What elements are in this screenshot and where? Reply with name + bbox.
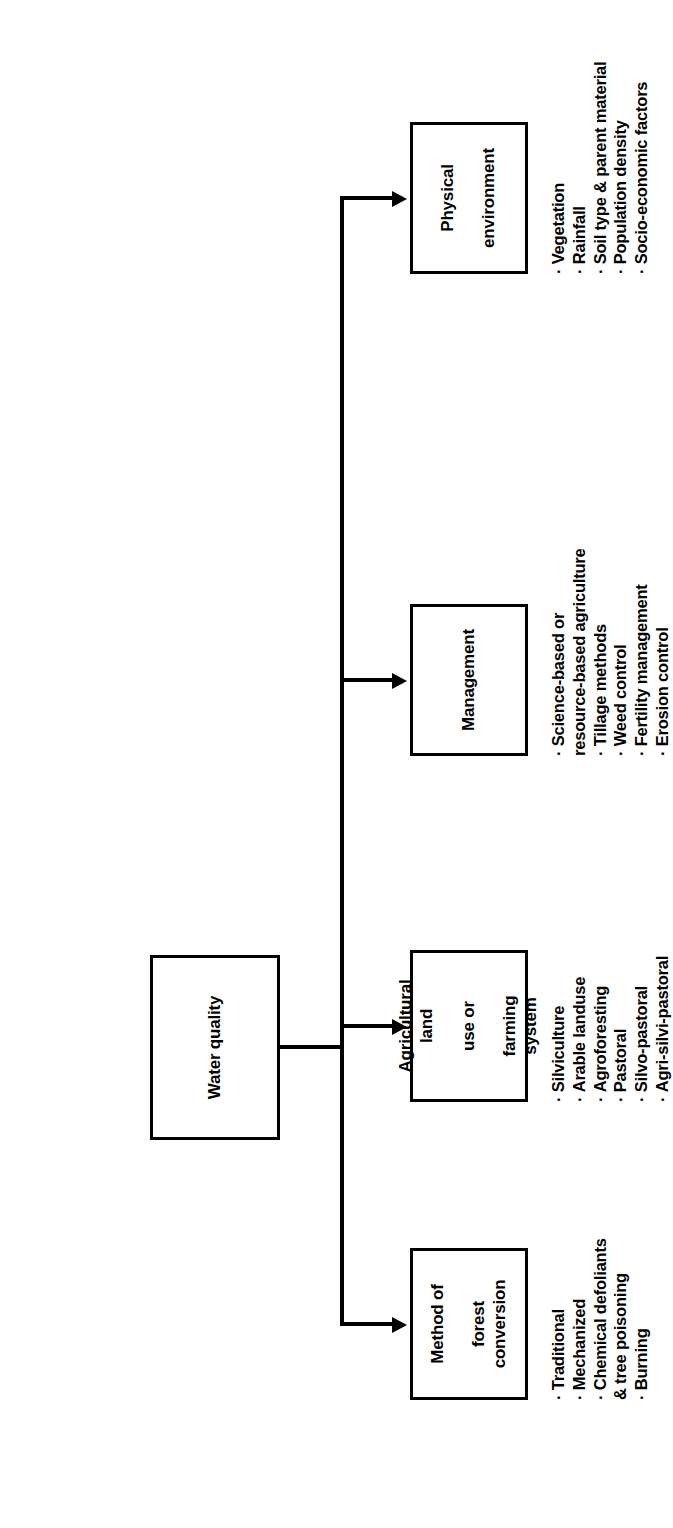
connector-drop-4: [340, 196, 396, 200]
list-item: Mechanized: [569, 1238, 590, 1400]
list-item: Chemical defoliants: [590, 1238, 611, 1400]
list-item: Vegetation: [548, 62, 569, 274]
list-item: Agri-silvi-pastoral: [652, 956, 673, 1102]
branch-node-agricultural-land-use-or-farming-system: Agricultural land use or farming system: [410, 950, 528, 1102]
branch-node-method-of-forest-conversion: Method of forest conversion: [410, 1248, 528, 1400]
connector-drop-1: [340, 1322, 396, 1326]
branch-title-4: Physical environment: [438, 136, 500, 260]
connector-drop-2: [340, 1024, 396, 1028]
list-item: Silviculture: [548, 956, 569, 1102]
list-item: Arable landuse: [569, 956, 590, 1102]
list-item: Fertility management: [631, 548, 652, 756]
branch-node-management: Management: [410, 604, 528, 756]
list-item: Silvo-pastoral: [631, 956, 652, 1102]
bullet-list-agricultural-land-use: Silviculture Arable landuse Agroforestin…: [548, 956, 673, 1102]
arrowhead-3: [392, 673, 407, 689]
connector-root-drop: [280, 1046, 342, 1050]
list-item: Agroforesting: [590, 956, 611, 1102]
list-item: Socio-economic factors: [631, 62, 652, 274]
list-item: Rainfall: [569, 62, 590, 274]
bullet-list-management: Science-based or resource-based agricult…: [548, 548, 673, 756]
list-item-continuation: & tree poisoning: [610, 1238, 631, 1400]
list-item: Traditional: [548, 1238, 569, 1400]
list-item: Burning: [631, 1238, 652, 1400]
list-item-continuation: resource-based agriculture: [569, 548, 590, 756]
branch-title-line: Management: [459, 623, 480, 737]
branch-node-physical-environment: Physical environment: [410, 122, 528, 274]
branch-title-line: Physical: [438, 142, 459, 254]
branch-title-1: Method of forest conversion: [428, 1251, 511, 1397]
connector-spine: [340, 196, 344, 1326]
list-item: Erosion control: [652, 548, 673, 756]
arrowhead-4: [392, 191, 407, 207]
branch-title-line: environment: [479, 142, 500, 254]
arrowhead-1: [392, 1317, 407, 1333]
branch-title-line: Method of: [428, 1257, 449, 1391]
branch-title-line: Agricultural land: [396, 959, 437, 1093]
list-item: Science-based or: [548, 548, 569, 756]
list-item: Tillage methods: [590, 548, 611, 756]
list-item: Weed control: [610, 548, 631, 756]
bullet-list-method-of-forest-conversion: Traditional Mechanized Chemical defolian…: [548, 1238, 652, 1400]
root-node-water-quality: Water quality: [150, 955, 280, 1140]
list-item: Pastoral: [610, 956, 631, 1102]
branch-title-2: Agricultural land use or farming system: [396, 953, 541, 1099]
branch-title-line: farming system: [500, 959, 541, 1093]
bullet-list-physical-environment: Vegetation Rainfall Soil type & parent m…: [548, 62, 652, 274]
root-node-label: Water quality: [205, 990, 226, 1106]
connector-drop-3: [340, 678, 396, 682]
branch-title-line: forest conversion: [469, 1257, 510, 1391]
list-item: Population density: [610, 62, 631, 274]
list-item: Soil type & parent material: [590, 62, 611, 274]
branch-title-line: use or: [459, 959, 480, 1093]
branch-title-3: Management: [459, 617, 480, 743]
